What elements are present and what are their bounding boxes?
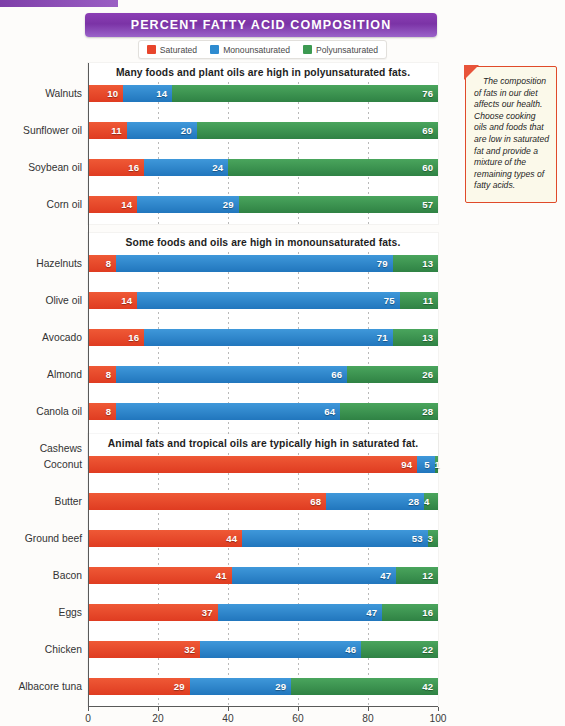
bar-segment-saturated: 8 bbox=[88, 255, 116, 272]
bar-segment-monounsaturated: 75 bbox=[137, 292, 400, 309]
callout-text: The composition of fats in our diet affe… bbox=[474, 76, 549, 192]
x-axis-tick bbox=[88, 707, 89, 711]
bar-segment-polyunsaturated: 42 bbox=[291, 678, 438, 695]
x-axis-tick bbox=[158, 707, 159, 711]
bar-segment-saturated: 16 bbox=[88, 329, 144, 346]
chart-plot-area: WalnutsSunflower oilSoybean oilCorn oilM… bbox=[0, 0, 470, 726]
bar-value-label: 5 bbox=[424, 459, 429, 470]
category-label: Avocado bbox=[0, 332, 82, 343]
bar-value-label: 16 bbox=[128, 162, 139, 173]
panel-title: Many foods and plant oils are high in po… bbox=[88, 63, 438, 82]
x-axis-tick bbox=[228, 707, 229, 711]
bar-value-label: 46 bbox=[345, 644, 356, 655]
bar-segment-saturated: 41 bbox=[88, 567, 232, 584]
x-axis-line bbox=[88, 706, 438, 707]
category-label: Eggs bbox=[0, 607, 82, 618]
x-axis-tick-label: 0 bbox=[85, 713, 91, 724]
bar-segment-polyunsaturated: 22 bbox=[361, 641, 438, 658]
bar-value-label: 66 bbox=[331, 369, 342, 380]
bar-value-label: 53 bbox=[412, 533, 423, 544]
bar-value-label: 8 bbox=[106, 406, 111, 417]
bar-value-label: 28 bbox=[422, 406, 433, 417]
bar-value-label: 28 bbox=[408, 496, 419, 507]
bar-value-label: 24 bbox=[212, 162, 223, 173]
bar-value-label: 47 bbox=[366, 607, 377, 618]
bar-segment-polyunsaturated: 3 bbox=[428, 530, 439, 547]
category-label: Walnuts bbox=[0, 88, 82, 99]
bar-row: 142957 bbox=[88, 196, 438, 213]
bar-row: 44533 bbox=[88, 530, 438, 547]
x-axis-tick-label: 100 bbox=[430, 713, 447, 724]
bar-segment-saturated: 37 bbox=[88, 604, 218, 621]
bar-segment-polyunsaturated: 26 bbox=[347, 366, 438, 383]
bar-segment-monounsaturated: 79 bbox=[116, 255, 393, 272]
bar-segment-saturated: 68 bbox=[88, 493, 326, 510]
bar-segment-polyunsaturated: 13 bbox=[393, 255, 439, 272]
bar-value-label: 11 bbox=[423, 295, 433, 306]
bar-row: 87913 bbox=[88, 255, 438, 272]
bar-value-label: 32 bbox=[184, 644, 195, 655]
bar-segment-polyunsaturated: 13 bbox=[393, 329, 439, 346]
bar-value-label: 44 bbox=[226, 533, 237, 544]
bar-segment-saturated: 94 bbox=[88, 456, 417, 473]
bar-segment-saturated: 10 bbox=[88, 85, 123, 102]
bar-value-label: 14 bbox=[121, 199, 132, 210]
bar-value-label: 29 bbox=[174, 681, 185, 692]
bar-row: 324622 bbox=[88, 641, 438, 658]
bar-row: 147511 bbox=[88, 292, 438, 309]
bar-segment-saturated: 29 bbox=[88, 678, 190, 695]
bar-segment-polyunsaturated: 12 bbox=[396, 567, 438, 584]
bar-segment-saturated: 8 bbox=[88, 366, 116, 383]
bar-segment-monounsaturated: 47 bbox=[232, 567, 397, 584]
bar-segment-saturated: 8 bbox=[88, 403, 116, 420]
bar-value-label: 22 bbox=[422, 644, 433, 655]
bar-segment-polyunsaturated: 11 bbox=[400, 292, 439, 309]
bar-segment-polyunsaturated: 1 bbox=[435, 456, 439, 473]
bar-value-label: 71 bbox=[377, 332, 388, 343]
category-label: Bacon bbox=[0, 570, 82, 581]
bar-segment-monounsaturated: 53 bbox=[242, 530, 428, 547]
chart-panel-1: Many foods and plant oils are high in po… bbox=[88, 63, 438, 224]
category-label: Canola oil bbox=[0, 406, 82, 417]
bar-segment-saturated: 16 bbox=[88, 159, 144, 176]
bar-value-label: 94 bbox=[401, 459, 412, 470]
x-axis-tick-label: 40 bbox=[222, 713, 233, 724]
bar-segment-saturated: 44 bbox=[88, 530, 242, 547]
bar-segment-polyunsaturated: 57 bbox=[239, 196, 439, 213]
bar-segment-saturated: 14 bbox=[88, 292, 137, 309]
bar-value-label: 3 bbox=[428, 533, 433, 544]
bar-value-label: 69 bbox=[422, 125, 433, 136]
bar-value-label: 57 bbox=[422, 199, 433, 210]
bar-value-label: 16 bbox=[422, 607, 433, 618]
bar-row: 68284 bbox=[88, 493, 438, 510]
category-label: Butter bbox=[0, 496, 82, 507]
category-label: Soybean oil bbox=[0, 162, 82, 173]
bar-segment-saturated: 14 bbox=[88, 196, 137, 213]
bar-segment-monounsaturated: 47 bbox=[218, 604, 383, 621]
category-label: Almond bbox=[0, 369, 82, 380]
bar-value-label: 64 bbox=[324, 406, 335, 417]
category-label: Chicken bbox=[0, 644, 82, 655]
bar-value-label: 20 bbox=[181, 125, 192, 136]
bar-segment-polyunsaturated: 4 bbox=[424, 493, 438, 510]
chart-panel-3: Animal fats and tropical oils are typica… bbox=[88, 434, 438, 706]
bar-value-label: 13 bbox=[422, 332, 433, 343]
x-axis-tick-label: 80 bbox=[362, 713, 373, 724]
bar-value-label: 8 bbox=[106, 369, 111, 380]
bar-value-label: 4 bbox=[424, 496, 429, 507]
x-axis-tick bbox=[298, 707, 299, 711]
bar-value-label: 26 bbox=[422, 369, 433, 380]
bar-segment-polyunsaturated: 16 bbox=[382, 604, 438, 621]
bar-row: 374716 bbox=[88, 604, 438, 621]
bar-value-label: 14 bbox=[121, 295, 132, 306]
bar-row: 162460 bbox=[88, 159, 438, 176]
bar-value-label: 76 bbox=[422, 88, 433, 99]
bar-segment-monounsaturated: 66 bbox=[116, 366, 347, 383]
bar-segment-monounsaturated: 29 bbox=[190, 678, 292, 695]
bar-segment-monounsaturated: 14 bbox=[123, 85, 172, 102]
bar-segment-saturated: 32 bbox=[88, 641, 200, 658]
chart-panel-2: Some foods and oils are high in monounsa… bbox=[88, 233, 438, 468]
category-label: Hazelnuts bbox=[0, 258, 82, 269]
bar-segment-monounsaturated: 24 bbox=[144, 159, 228, 176]
category-label: Olive oil bbox=[0, 295, 82, 306]
